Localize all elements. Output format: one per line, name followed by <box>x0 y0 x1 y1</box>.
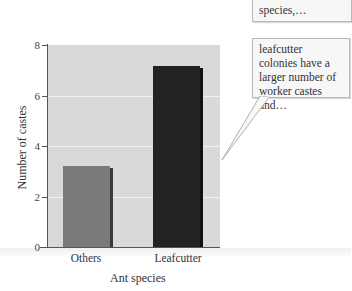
y-tick-label-6: 6 <box>28 90 40 102</box>
y-tick-label-2: 2 <box>28 191 40 203</box>
callout-top-text: species,… <box>259 4 307 16</box>
bar-others <box>63 166 110 247</box>
callout-leafcutter: leafcutter colonies have a larger number… <box>252 38 350 98</box>
bar-others-side <box>110 168 113 247</box>
y-tick-label-0: 0 <box>28 241 40 253</box>
callout-leafcutter-text: leafcutter colonies have a larger number… <box>259 43 336 111</box>
callout-pointer <box>218 96 268 166</box>
y-tick-8 <box>42 45 48 46</box>
bar-leafcutter-side <box>200 68 203 247</box>
y-tick-2 <box>42 197 48 198</box>
y-tick-6 <box>42 96 48 97</box>
y-axis-title: Number of castes <box>15 88 30 208</box>
x-category-others: Others <box>46 252 126 264</box>
y-tick-label-4: 4 <box>28 140 40 152</box>
x-axis <box>40 247 220 248</box>
x-axis-title: Ant species <box>110 271 166 286</box>
callout-top: species,… <box>252 0 352 22</box>
x-category-leafcutter: Leafcutter <box>138 252 218 264</box>
y-tick-label-8: 8 <box>28 39 40 51</box>
bar-leafcutter <box>153 66 200 247</box>
y-tick-4 <box>42 146 48 147</box>
